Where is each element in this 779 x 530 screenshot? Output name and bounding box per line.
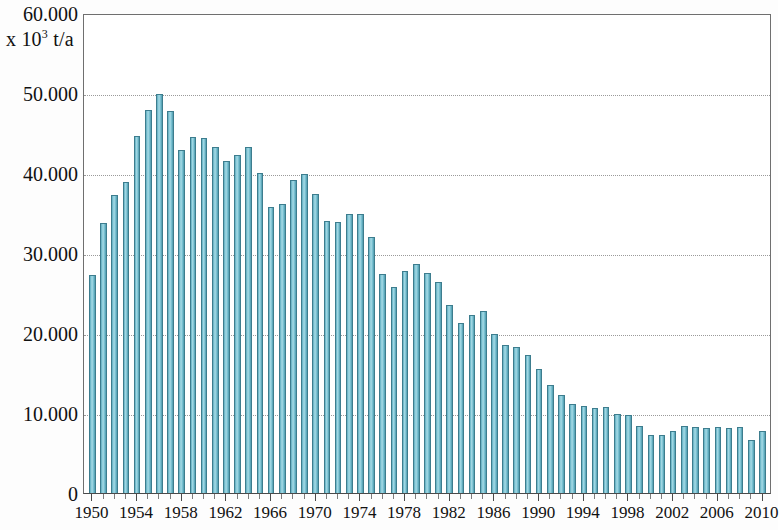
x-tick-major	[315, 494, 316, 501]
bar	[178, 150, 185, 493]
bar	[123, 182, 130, 493]
x-tick-minor	[192, 494, 193, 499]
bar	[413, 264, 420, 493]
bar	[234, 155, 241, 493]
x-tick-minor	[694, 494, 695, 499]
x-tick-minor	[438, 494, 439, 499]
bar	[491, 334, 498, 493]
x-tick-minor	[505, 494, 506, 499]
bar	[312, 194, 319, 493]
x-tick-label: 1966	[253, 503, 287, 523]
x-axis-ticks	[83, 494, 771, 501]
x-tick-label: 1982	[432, 503, 466, 523]
bar	[625, 415, 632, 493]
x-tick-label: 1970	[298, 503, 332, 523]
x-tick-minor	[516, 494, 517, 499]
bar	[100, 223, 107, 493]
bar	[335, 222, 342, 493]
x-tick-label: 1978	[387, 503, 421, 523]
y-tick-label: 40.000	[0, 164, 78, 184]
y-tick-label: 50.000	[0, 84, 78, 104]
x-tick-major	[449, 494, 450, 501]
bar	[502, 345, 509, 493]
x-tick-major	[762, 494, 763, 501]
y-tick-label: 20.000	[0, 324, 78, 344]
bar	[659, 435, 666, 493]
bar	[681, 426, 688, 493]
x-tick-minor	[214, 494, 215, 499]
x-tick-minor	[750, 494, 751, 499]
x-tick-major	[717, 494, 718, 501]
bar	[469, 315, 476, 493]
x-tick-minor	[683, 494, 684, 499]
bar	[558, 395, 565, 493]
bar	[759, 431, 766, 493]
x-tick-minor	[426, 494, 427, 499]
bar	[212, 147, 219, 493]
x-tick-major	[493, 494, 494, 501]
x-tick-label: 1950	[74, 503, 108, 523]
bar	[89, 275, 96, 493]
x-tick-major	[538, 494, 539, 501]
bar	[480, 311, 487, 493]
x-axis: 1950195419581962196619701974197819821986…	[0, 503, 778, 530]
x-tick-major	[672, 494, 673, 501]
x-tick-major	[181, 494, 182, 501]
bar	[703, 428, 710, 493]
x-tick-label: 2002	[655, 503, 689, 523]
y-axis: 010.00020.00030.00040.00050.00060.000	[0, 0, 78, 530]
bar	[726, 428, 733, 493]
x-tick-major	[91, 494, 92, 501]
bar	[581, 406, 588, 493]
bar	[223, 161, 230, 493]
x-tick-minor	[114, 494, 115, 499]
x-tick-label: 1962	[208, 503, 242, 523]
x-tick-minor	[237, 494, 238, 499]
bar	[368, 237, 375, 493]
x-tick-major	[404, 494, 405, 501]
x-tick-minor	[527, 494, 528, 499]
bar	[402, 271, 409, 493]
x-tick-minor	[471, 494, 472, 499]
bar	[201, 138, 208, 493]
bar	[245, 147, 252, 493]
bar	[592, 408, 599, 493]
x-tick-major	[225, 494, 226, 501]
x-tick-label: 1998	[610, 503, 644, 523]
x-tick-minor	[605, 494, 606, 499]
bar	[156, 94, 163, 493]
x-tick-minor	[158, 494, 159, 499]
bar	[346, 214, 353, 493]
x-tick-minor	[170, 494, 171, 499]
x-tick-minor	[382, 494, 383, 499]
y-tick-label: 60.000	[0, 4, 78, 24]
bar	[190, 137, 197, 493]
x-tick-major	[136, 494, 137, 501]
bar	[737, 427, 744, 493]
x-tick-minor	[371, 494, 372, 499]
bar	[268, 207, 275, 493]
x-tick-minor	[560, 494, 561, 499]
bar	[614, 414, 621, 493]
bar	[324, 221, 331, 493]
x-tick-major	[627, 494, 628, 501]
bar	[458, 323, 465, 493]
x-tick-minor	[147, 494, 148, 499]
bar	[391, 287, 398, 493]
x-tick-minor	[292, 494, 293, 499]
x-tick-label: 1954	[119, 503, 153, 523]
bar	[569, 404, 576, 493]
bar-series	[84, 15, 770, 493]
bar	[290, 180, 297, 493]
bar	[636, 426, 643, 493]
bar	[692, 427, 699, 493]
x-tick-minor	[549, 494, 550, 499]
x-tick-minor	[281, 494, 282, 499]
x-tick-label: 2010	[745, 503, 779, 523]
bar	[257, 173, 264, 493]
bar	[547, 385, 554, 493]
x-tick-minor	[594, 494, 595, 499]
x-tick-minor	[103, 494, 104, 499]
x-tick-minor	[348, 494, 349, 499]
